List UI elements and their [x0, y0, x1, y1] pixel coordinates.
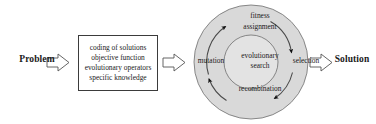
- stage-label-mutation: mutation: [190, 57, 232, 66]
- spec-box-line-1: coding of solutions: [90, 43, 147, 53]
- fitness-line-1: fitness: [224, 11, 296, 22]
- cycle-core-label: evolutionary search: [228, 51, 292, 71]
- stage-label-recombination: recombination: [214, 85, 306, 94]
- spec-box-text: coding of solutions objective function e…: [79, 37, 157, 89]
- spec-box-line-3: evolutionary operators: [85, 63, 152, 73]
- spec-box-line-2: objective function: [91, 53, 145, 63]
- solution-label: Solution: [330, 54, 374, 65]
- evolutionary-algorithm-diagram: Problem Solution coding of solutions obj…: [0, 0, 376, 124]
- stage-label-fitness-assignment: fitness assignment: [224, 11, 296, 32]
- core-line-2: search: [228, 61, 292, 71]
- core-line-1: evolutionary: [228, 51, 292, 61]
- problem-label: Problem: [8, 54, 66, 65]
- spec-box-line-4: specific knowledge: [89, 73, 146, 83]
- arrow-box-to-cycle: [163, 54, 185, 71]
- fitness-line-2: assignment: [224, 22, 296, 33]
